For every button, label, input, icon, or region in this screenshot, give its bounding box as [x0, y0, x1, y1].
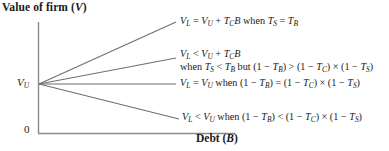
annotation-series-1: VL = VU + TCB when TS = TB	[180, 15, 298, 28]
series-line-1	[39, 22, 176, 84]
annotation-series-3: VL = VU when (1 − TB) = (1 − TC) × (1 − …	[180, 77, 360, 90]
value-of-firm-chart: Value of firm (V) VU 0 VL = VU + TCB whe…	[0, 0, 389, 151]
series-line-2	[39, 58, 176, 84]
annotation-series-4: VL < VU when (1 − TB) < (1 − TC) × (1 − …	[182, 111, 362, 124]
annotation-series-2: VL < VU + TCB when TS < TB but (1 − TB) …	[180, 48, 373, 73]
x-axis-title: Debt (B)	[196, 132, 238, 144]
series-line-4	[39, 84, 179, 119]
